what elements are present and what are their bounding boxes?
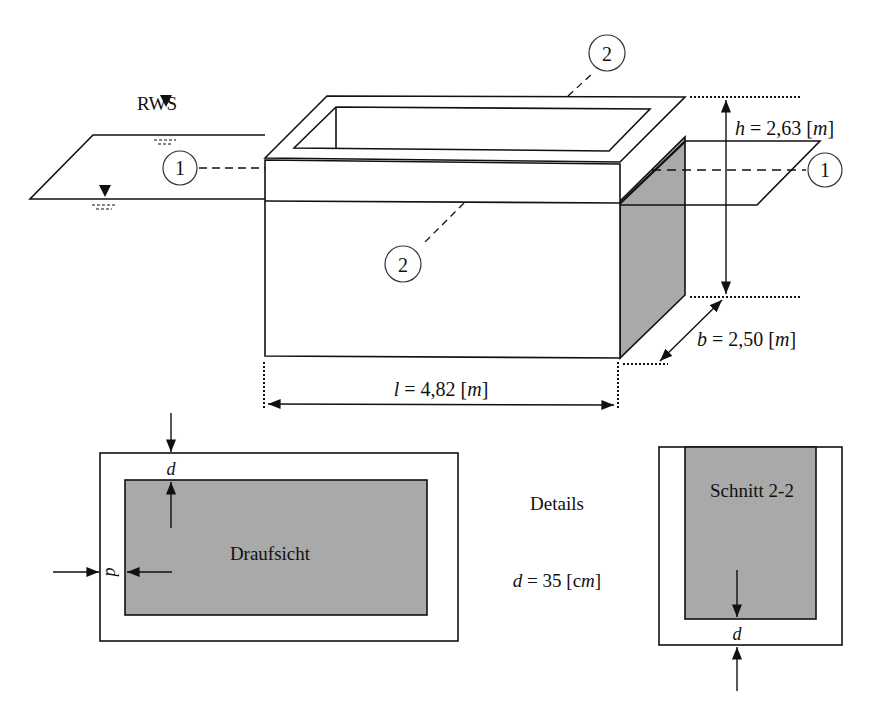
h-label: h = 2,63 [m] — [735, 117, 834, 139]
plan-view-title: Draufsicht — [230, 543, 311, 564]
b-label: b = 2,50 [m] — [697, 328, 796, 350]
water-plane-left — [30, 135, 265, 199]
dimension-l: l = 4,82 [m] — [264, 362, 618, 410]
box-front-face — [265, 160, 620, 358]
svg-text:2: 2 — [398, 254, 408, 276]
details-title: Details — [530, 493, 584, 514]
dimension-h: h = 2,63 [m] — [690, 97, 834, 297]
svg-text:2: 2 — [602, 43, 612, 65]
tank-diagram: RWS 1 1 2 2 h = 2,63 [m] b — [0, 0, 888, 718]
svg-text:1: 1 — [175, 157, 185, 179]
section-d-label: d — [733, 624, 743, 644]
section-view-title: Schnitt 2-2 — [710, 480, 794, 501]
plan-d-label-side: d — [102, 568, 122, 578]
tank-box — [265, 96, 685, 358]
rws-label: RWS — [137, 93, 177, 114]
section-marker-2-top: 2 — [568, 35, 625, 96]
l-label: l = 4,82 [m] — [394, 378, 489, 400]
plan-d-label-top: d — [167, 459, 177, 479]
box-inner-opening — [294, 107, 650, 151]
svg-text:1: 1 — [820, 159, 830, 181]
details-block: Details d = 35 [cm] — [513, 493, 601, 591]
details-d-value: d = 35 [cm] — [513, 570, 601, 591]
section-view: Schnitt 2-2 d — [659, 447, 842, 691]
plan-view: Draufsicht d d — [53, 413, 458, 641]
section-marker-1-left: 1 — [163, 151, 265, 185]
water-level-symbol-bottom — [92, 185, 116, 209]
